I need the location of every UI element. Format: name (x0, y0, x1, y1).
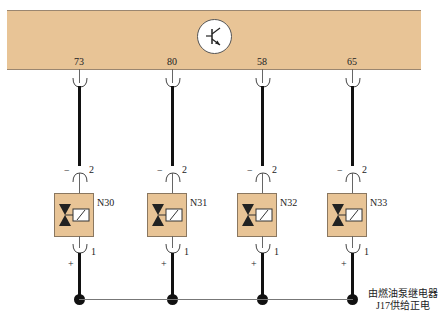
pin-stub (172, 173, 173, 193)
wire (261, 253, 264, 299)
injector-n32 (237, 193, 277, 237)
wire (351, 253, 354, 299)
minus-label: − (64, 165, 70, 176)
supply-note-line2: J17供给正电 (368, 300, 438, 312)
wire (171, 86, 174, 166)
wire (261, 86, 264, 166)
pin-top-label: 2 (362, 164, 367, 175)
ecu-pin-label: 65 (340, 56, 364, 67)
connector-icon (345, 172, 361, 182)
plus-label: + (251, 258, 257, 269)
plus-label: + (341, 258, 347, 269)
pin-stub (79, 173, 80, 193)
connector-icon (165, 172, 181, 182)
injector-n31 (147, 193, 187, 237)
supply-note: 由燃油泵继电器 J17供给正电 (368, 288, 438, 312)
minus-label: − (247, 165, 253, 176)
wire (351, 86, 354, 166)
component-label: N32 (280, 197, 297, 208)
pin-bottom-label: 1 (184, 246, 189, 257)
injector-valve-icon (55, 194, 93, 236)
pin-bottom-label: 1 (91, 246, 96, 257)
injector-valve-icon (328, 194, 366, 236)
wire (78, 86, 81, 166)
pin-bottom-label: 1 (274, 246, 279, 257)
pin-top-label: 2 (272, 164, 277, 175)
component-label: N31 (190, 197, 207, 208)
pin-top-label: 2 (182, 164, 187, 175)
supply-bus-line (79, 299, 353, 300)
connector-icon (255, 172, 271, 182)
pin-bottom-label: 1 (364, 246, 369, 257)
injector-valve-icon (238, 194, 276, 236)
connector-icon (72, 172, 88, 182)
minus-label: − (157, 165, 163, 176)
transistor-icon (197, 19, 232, 54)
injector-valve-icon (148, 194, 186, 236)
component-label: N30 (97, 197, 114, 208)
wire (171, 253, 174, 299)
wire (78, 253, 81, 299)
minus-label: − (337, 165, 343, 176)
supply-note-line1: 由燃油泵继电器 (368, 288, 438, 300)
component-label: N33 (370, 197, 387, 208)
pin-stub (352, 173, 353, 193)
ecu-pin-label: 73 (67, 56, 91, 67)
injector-n33 (327, 193, 367, 237)
injector-n30 (54, 193, 94, 237)
pin-top-label: 2 (89, 164, 94, 175)
plus-label: + (161, 258, 167, 269)
ecu-pin-label: 58 (250, 56, 274, 67)
plus-label: + (68, 258, 74, 269)
pin-stub (262, 173, 263, 193)
ecu-pin-label: 80 (160, 56, 184, 67)
